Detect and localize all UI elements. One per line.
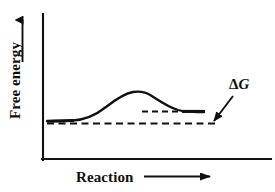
free-energy-reaction-diagram: Free energy Reaction ΔG [0,0,275,192]
x-axis-label: Reaction [76,169,133,186]
y-axis-label: Free energy [7,35,24,127]
arrow-down-left-icon [214,96,233,121]
delta-g-annotation-label: ΔG [229,76,249,93]
reaction-coordinate-curve [47,92,204,122]
plot-canvas [0,0,275,192]
delta-g-variable: G [238,76,249,92]
reactant-plateau-segment [47,121,74,122]
delta-symbol: Δ [229,76,238,92]
